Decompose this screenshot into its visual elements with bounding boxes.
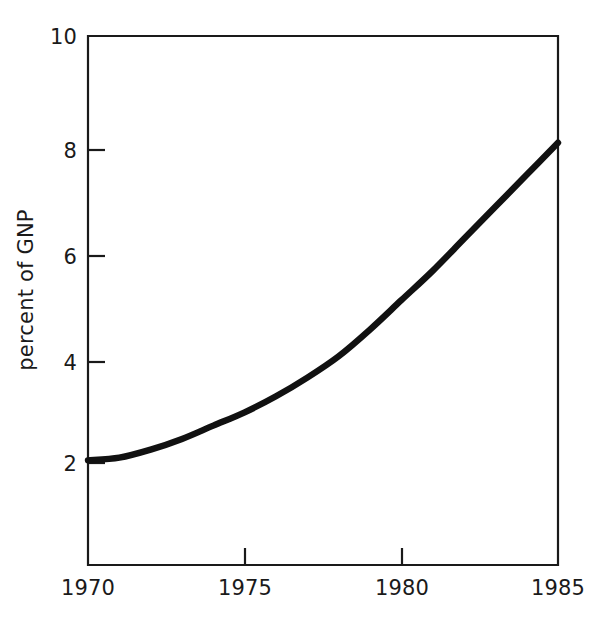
y-tick-label-10: 10 — [50, 25, 77, 49]
y-axis-title: percent of GNP — [14, 209, 38, 370]
y-tick-label-4: 4 — [63, 351, 77, 375]
x-tick-label-1985: 1985 — [531, 576, 585, 600]
y-tick-label-2: 2 — [63, 452, 77, 476]
chart-figure: 10 8 6 4 2 1970 1975 1980 1985 percent o… — [0, 0, 591, 626]
line-chart: 10 8 6 4 2 1970 1975 1980 1985 percent o… — [0, 0, 591, 626]
x-tick-label-1970: 1970 — [61, 576, 115, 600]
y-tick-label-6: 6 — [63, 245, 77, 269]
x-tick-label-1980: 1980 — [375, 576, 429, 600]
y-tick-label-8: 8 — [63, 139, 77, 163]
x-tick-label-1975: 1975 — [218, 576, 272, 600]
